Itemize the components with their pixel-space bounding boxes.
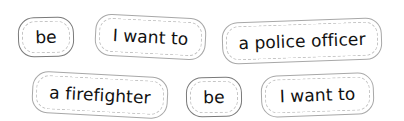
word-card-a-firefighter[interactable]: a firefighter <box>31 70 169 119</box>
word-card-i-want-to[interactable]: I want to <box>94 13 207 61</box>
word-card-label: be <box>203 87 225 107</box>
word-card-label: I want to <box>112 25 189 49</box>
word-card-be[interactable]: be <box>186 77 243 118</box>
word-card-label: be <box>35 27 57 48</box>
word-card-label: a firefighter <box>49 82 151 107</box>
word-card-label: I want to <box>279 84 355 107</box>
word-card-a-police-officer[interactable]: a police officer <box>221 17 382 65</box>
word-card-label: a police officer <box>238 29 366 53</box>
word-card-i-want-to[interactable]: I want to <box>260 72 374 118</box>
word-card-be[interactable]: be <box>17 16 74 57</box>
